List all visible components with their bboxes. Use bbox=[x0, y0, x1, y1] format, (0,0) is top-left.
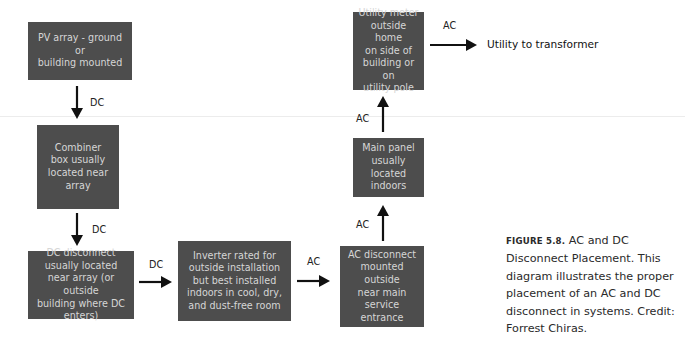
node-combiner-box: Combiner box usually located near array bbox=[37, 125, 119, 209]
arrow-down-icon bbox=[71, 213, 83, 247]
node-text-line: building where DC bbox=[32, 298, 130, 311]
edge-label-ac: AC bbox=[307, 256, 320, 267]
figure-caption: FIGURE 5.8. AC and DC Disconnect Placeme… bbox=[506, 232, 684, 337]
edge-label-dc: DC bbox=[92, 224, 106, 235]
node-text-line: Combiner bbox=[48, 142, 108, 155]
node-text-line: indoors in cool, dry, bbox=[187, 287, 282, 300]
arrow-right-icon bbox=[297, 275, 331, 287]
node-text-line: on side of bbox=[357, 45, 420, 58]
node-text-line: Inverter rated for bbox=[187, 250, 282, 263]
node-text-line: utility pole bbox=[357, 82, 420, 95]
node-text-line: entrance bbox=[344, 312, 420, 325]
node-text-line: DC disconnect bbox=[32, 247, 130, 260]
node-text-line: located indoors bbox=[357, 168, 420, 193]
arrow-right-icon bbox=[139, 276, 173, 288]
node-main-panel: Main panel usually located indoors bbox=[353, 138, 424, 197]
node-text-line: usually located bbox=[32, 260, 130, 273]
node-ac-disconnect: AC disconnect mounted outside near main … bbox=[340, 246, 424, 327]
node-text-line: array bbox=[48, 180, 108, 193]
arrow-right-icon bbox=[430, 39, 478, 51]
node-text-line: building mounted bbox=[32, 57, 128, 70]
arrow-down-icon bbox=[71, 86, 83, 120]
figure-number: FIGURE 5.8. bbox=[506, 236, 565, 246]
edge-label-dc: DC bbox=[149, 259, 163, 270]
page-divider-line bbox=[0, 116, 685, 117]
node-text-line: mounted outside bbox=[344, 261, 420, 286]
edge-label-ac: AC bbox=[356, 219, 369, 230]
destination-label: Utility to transformer bbox=[487, 38, 598, 50]
edge-label-dc: DC bbox=[90, 97, 104, 108]
node-text-line: and dust-free room bbox=[187, 300, 282, 313]
node-text-line: Utility meter bbox=[357, 7, 420, 20]
node-text-line: near main service bbox=[344, 287, 420, 312]
node-pv-array: PV array - ground or building mounted bbox=[28, 22, 132, 80]
node-text-line: usually bbox=[357, 155, 420, 168]
edge-label-ac: AC bbox=[356, 113, 369, 124]
node-text-line: located near bbox=[48, 167, 108, 180]
node-text-line: Main panel bbox=[357, 142, 420, 155]
node-text-line: building or on bbox=[357, 57, 420, 82]
node-text-line: outside installation bbox=[187, 262, 282, 275]
node-text-line: outside home bbox=[357, 20, 420, 45]
caption-text: AC and DC Disconnect Placement. This dia… bbox=[506, 234, 675, 335]
node-text-line: box usually bbox=[48, 154, 108, 167]
edge-label-ac: AC bbox=[443, 20, 456, 31]
node-dc-disconnect: DC disconnect usually located near array… bbox=[28, 251, 134, 319]
node-text-line: AC disconnect bbox=[344, 249, 420, 262]
arrow-up-icon bbox=[377, 205, 389, 241]
node-text-line: PV array - ground or bbox=[32, 32, 128, 57]
node-text-line: near array (or outside bbox=[32, 272, 130, 297]
node-inverter: Inverter rated for outside installation … bbox=[178, 241, 291, 321]
node-text-line: but best installed bbox=[187, 275, 282, 288]
node-utility-meter: Utility meter outside home on side of bu… bbox=[353, 12, 424, 90]
arrow-up-icon bbox=[377, 96, 389, 132]
node-text-line: enters) bbox=[32, 310, 130, 323]
